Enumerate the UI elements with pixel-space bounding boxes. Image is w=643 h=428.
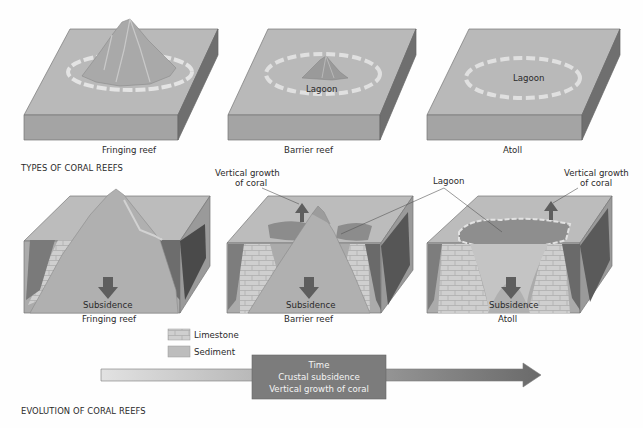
caption-evolution-barrier: Barrier reef [284, 314, 334, 324]
callout-lagoon: Lagoon [433, 176, 464, 186]
coral-reef-diagram: Fringing reef Lagoon Barrier reef Lagoon… [0, 0, 643, 428]
subsidence-label-2: Subsidence [286, 300, 335, 310]
caption-fringing-reef: Fringing reef [102, 145, 157, 155]
caption-barrier-reef: Barrier reef [284, 145, 334, 155]
lagoon-label-atoll: Lagoon [513, 73, 544, 83]
timeline-line-subsidence: Crustal subsidence [278, 372, 360, 382]
section-title-types: TYPES OF CORAL REEFS [20, 163, 123, 173]
type-block-atoll: Lagoon Atoll [427, 29, 620, 155]
legend: Limestone Sediment [168, 329, 239, 357]
timeline-line-time: Time [307, 360, 329, 370]
evolution-block-barrier: Subsidence Barrier reef [227, 196, 413, 324]
legend-swatch-sediment [168, 346, 190, 357]
caption-evolution-fringing: Fringing reef [82, 314, 137, 324]
evolution-block-fringing: Subsidence Fringing reef [24, 189, 210, 324]
timeline-line-growth: Vertical growth of coral [269, 384, 369, 394]
evolution-block-atoll: Subsidence Atoll [427, 196, 612, 324]
timeline-arrow: Time Crustal subsidence Vertical growth … [101, 355, 541, 399]
caption-evolution-atoll: Atoll [498, 314, 517, 324]
lagoon-label-barrier: Lagoon [306, 84, 337, 94]
subsidence-label-3: Subsidence [489, 300, 538, 310]
legend-swatch-limestone [168, 329, 190, 340]
subsidence-label-1: Subsidence [83, 300, 132, 310]
callout-vertical-growth-left: Vertical growth [215, 168, 280, 178]
section-title-evolution: EVOLUTION OF CORAL REEFS [21, 406, 146, 416]
legend-label-sediment: Sediment [194, 347, 236, 357]
callout-vertical-growth-right: Vertical growth [564, 168, 629, 178]
callout-of-coral-left: of coral [235, 178, 267, 188]
callout-of-coral-right: of coral [580, 178, 612, 188]
type-block-fringing: Fringing reef [24, 19, 218, 155]
legend-label-limestone: Limestone [194, 330, 239, 340]
type-block-barrier: Lagoon Barrier reef [228, 29, 416, 155]
caption-atoll: Atoll [503, 145, 522, 155]
